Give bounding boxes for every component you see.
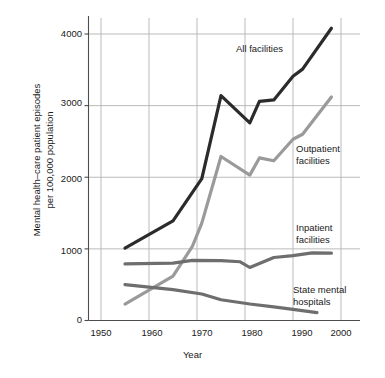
series-label-all-facilities-line1: All facilities	[236, 43, 283, 55]
series-label-all-facilities: All facilities	[236, 43, 283, 55]
x-tick-label-1980: 1980	[232, 327, 272, 338]
series-label-outpatient-line1: Outpatient	[296, 143, 340, 155]
y-tick-label-3000: 3000	[44, 97, 82, 108]
y-tick-label-2000: 2000	[44, 173, 82, 184]
series-label-inpatient-facilities: Inpatient facilities	[296, 222, 332, 245]
y-tick-label-0: 0	[44, 314, 82, 325]
y-axis-title-line1: Mental health–care patient episodes	[31, 84, 44, 237]
x-tick-label-1970: 1970	[182, 327, 222, 338]
line-chart: Mental health–care patient episodes per …	[0, 0, 385, 378]
series-label-inpatient-line1: Inpatient	[296, 222, 332, 234]
y-tick-label-4000: 4000	[44, 28, 82, 39]
series-label-state-mental-hospitals: State mental hospitals	[293, 284, 346, 307]
series-label-state-line2: hospitals	[293, 296, 346, 308]
x-axis-title: Year	[0, 349, 385, 360]
data-series-group	[125, 28, 331, 312]
series-label-inpatient-line2: facilities	[296, 234, 332, 246]
grid-lines	[89, 18, 361, 321]
series-line-inpatient-facilities	[125, 253, 331, 268]
axis-lines	[85, 16, 361, 321]
series-line-outpatient-facilities	[125, 97, 331, 304]
series-label-state-line1: State mental	[293, 284, 346, 296]
x-tick-label-1950: 1950	[81, 327, 121, 338]
y-axis-title: Mental health–care patient episodes per …	[0, 0, 86, 320]
series-line-all-facilities	[125, 28, 331, 248]
series-label-outpatient-line2: facilities	[296, 155, 340, 167]
series-line-state-mental-hospitals	[125, 285, 317, 313]
x-tick-label-1960: 1960	[132, 327, 172, 338]
x-tick-label-1990: 1990	[282, 327, 322, 338]
series-label-outpatient-facilities: Outpatient facilities	[296, 143, 340, 166]
y-tick-label-1000: 1000	[44, 245, 82, 256]
x-tick-label-2000: 2000	[321, 327, 361, 338]
